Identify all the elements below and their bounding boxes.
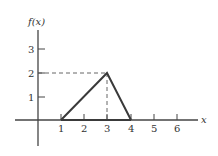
function-line: [61, 73, 131, 120]
y-tick-label-1: 1: [28, 92, 34, 103]
x-tick-label-3: 3: [104, 123, 110, 134]
y-tick-label-3: 3: [28, 44, 34, 55]
y-tick-label-2: 2: [28, 68, 34, 79]
x-tick-label-6: 6: [174, 123, 180, 134]
y-axis-label: f(x): [27, 16, 45, 27]
chart: 1 2 3 1 2 3 4 5 6 f(x) x: [0, 0, 218, 156]
x-tick-label-4: 4: [128, 123, 134, 134]
x-tick-label-1: 1: [58, 123, 64, 134]
x-tick-label-5: 5: [151, 123, 157, 134]
x-tick-label-2: 2: [81, 123, 87, 134]
x-axis-label: x: [201, 114, 207, 125]
